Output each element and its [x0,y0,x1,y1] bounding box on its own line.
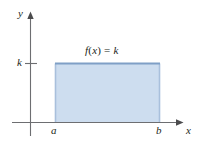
tick-label-k: k [17,57,22,68]
shaded-rectangle-fill [56,64,160,123]
y-axis-arrowhead [27,12,33,20]
y-axis-label: y [18,8,23,19]
x-axis-arrowhead [176,119,184,125]
figure-canvas [0,0,201,144]
function-annotation: f(x) = k [85,45,119,56]
tick-label-b: b [156,125,162,136]
constant-function-area-figure: y x k a b f(x) = k [0,0,201,144]
x-axis-label: x [186,125,191,136]
function-annotation-equals: = [101,44,113,56]
function-annotation-value: k [113,44,118,56]
tick-label-a: a [51,125,57,136]
